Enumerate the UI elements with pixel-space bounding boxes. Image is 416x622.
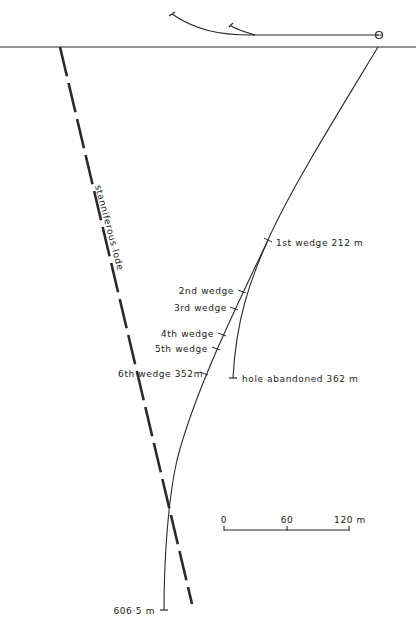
wedge-1-tick xyxy=(264,238,272,242)
lode-label: stanniferous lode xyxy=(93,184,125,272)
wedge-2-label: 2nd wedge xyxy=(179,286,234,296)
scale-tick-60: 60 xyxy=(281,515,294,525)
final-depth-label: 606·5 m xyxy=(113,606,155,616)
scale-bar: 0 60 120 m xyxy=(221,515,366,531)
abandoned-hole-label: hole abandoned 362 m xyxy=(242,374,358,384)
wedge-6-label: 6th wedge 352m xyxy=(118,369,203,379)
plan-view-traces xyxy=(169,12,383,39)
stanniferous-lode xyxy=(60,47,192,604)
wedge-4-label: 4th wedge xyxy=(161,329,214,339)
wedge-1-label: 1st wedge 212 m xyxy=(276,238,363,248)
plan-trace-branch xyxy=(231,26,255,35)
plan-trace-main xyxy=(172,14,379,35)
wedge-3-label: 3rd wedge xyxy=(174,303,227,313)
abandoned-hole xyxy=(233,240,268,378)
scale-tick-0: 0 xyxy=(221,515,227,525)
scale-tick-120: 120 m xyxy=(334,515,366,525)
wedge-5-label: 5th wedge xyxy=(155,344,208,354)
wedge-5-tick xyxy=(212,347,220,350)
wedge-2-tick xyxy=(238,290,246,293)
drill-hole-diagram: stanniferous lode 1st wedge 212 m 2nd we… xyxy=(0,0,416,622)
